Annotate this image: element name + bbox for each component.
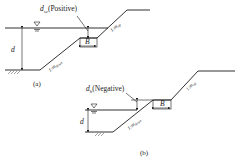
slope-up-label-a: 1:mup	[109, 21, 122, 33]
submergence-label-b: dh(Negative)	[86, 84, 125, 94]
slope-down-label-a: 1:mdown	[47, 59, 63, 74]
berm-width-label-a: B	[85, 37, 90, 46]
depth-label-b: d	[80, 117, 84, 126]
slope-up-label-b: 1:mup	[185, 80, 197, 93]
structure-profile-a	[40, 10, 150, 70]
figure-a: d dsc(Positive) B 1:mdown 1:mup (a)	[5, 4, 150, 88]
leader-line-b	[126, 93, 137, 102]
berm-breakwater-diagram: d dsc(Positive) B 1:mdown 1:mup (a)	[0, 0, 240, 165]
leader-line-a	[77, 16, 88, 31]
water-level-icon-a	[34, 22, 40, 31]
ground-hatch-b	[95, 133, 104, 136]
caption-a: (a)	[33, 80, 41, 88]
berm-width-label-b: B	[160, 99, 165, 108]
caption-b: (b)	[140, 149, 149, 157]
ground-hatch-a	[8, 71, 20, 74]
figure-b: d dh(Negative) B 1:mdown 1:mup (b)	[80, 71, 235, 157]
submergence-label-a: dsc(Positive)	[40, 4, 78, 14]
water-level-icon-b	[91, 104, 97, 113]
depth-label-a: d	[11, 45, 15, 54]
